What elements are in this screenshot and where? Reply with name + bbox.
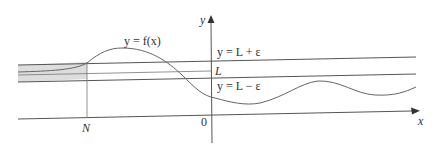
y-axis-label: y <box>200 14 205 26</box>
upper-band-label: y = L + ε <box>217 46 260 58</box>
limit-diagram: y x 0 y = f(x) y = L + ε L y = L − ε N <box>0 0 438 151</box>
y-axis-arrow-icon <box>208 15 215 23</box>
limit-label: L <box>215 65 222 77</box>
y-axis <box>211 22 212 143</box>
n-label: N <box>82 122 90 134</box>
curve-label: y = f(x) <box>124 35 161 47</box>
x-axis <box>18 111 412 119</box>
x-axis-label: x <box>418 115 423 127</box>
origin-label: 0 <box>201 116 207 128</box>
lower-band-label: y = L − ε <box>217 80 260 92</box>
